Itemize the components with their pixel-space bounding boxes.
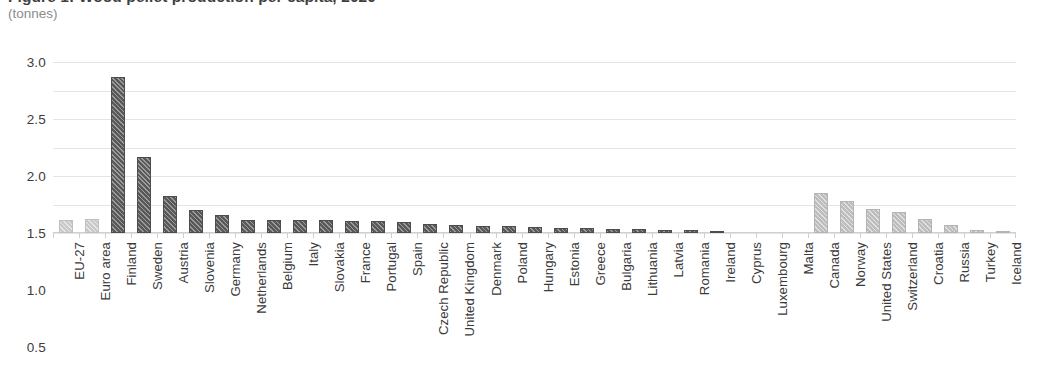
bar-slot bbox=[522, 62, 548, 233]
bar-slot bbox=[391, 62, 417, 233]
x-axis-tick bbox=[730, 233, 756, 238]
x-axis-tick bbox=[834, 233, 860, 238]
x-axis-label-slot: Netherlands bbox=[235, 240, 261, 375]
y-axis-tick-label: 1.5 bbox=[27, 226, 46, 241]
bar-slot bbox=[626, 62, 652, 233]
x-axis-tick bbox=[678, 233, 704, 238]
x-axis-tick bbox=[365, 233, 391, 238]
bar bbox=[215, 215, 229, 233]
chart-subtitle-units: (tonnes) bbox=[8, 6, 1008, 22]
bar-slot bbox=[443, 62, 469, 233]
x-axis-label-slot: Italy bbox=[287, 240, 313, 375]
x-axis-label-slot: Portugal bbox=[365, 240, 391, 375]
x-axis-tick bbox=[704, 233, 730, 238]
x-axis-label-slot: Germany bbox=[209, 240, 235, 375]
x-axis-tick bbox=[652, 233, 678, 238]
bar-slot bbox=[235, 62, 261, 233]
bar-slot bbox=[131, 62, 157, 233]
bar bbox=[163, 196, 177, 233]
bar bbox=[944, 225, 958, 233]
bar-slot bbox=[53, 62, 79, 233]
y-axis-tick-label: 2.5 bbox=[27, 112, 46, 127]
bar bbox=[267, 220, 281, 233]
bar-slot bbox=[105, 62, 131, 233]
bar-slot bbox=[548, 62, 574, 233]
chart-title: Figure 1: Wood pellet production per cap… bbox=[8, 0, 1008, 5]
chart-header: Figure 1: Wood pellet production per cap… bbox=[8, 0, 1008, 22]
bar bbox=[449, 225, 463, 233]
x-axis-label-slot: Bulgaria bbox=[600, 240, 626, 375]
x-axis-tick bbox=[417, 233, 443, 238]
x-axis-label-slot: Greece bbox=[574, 240, 600, 375]
x-axis-label-slot: France bbox=[339, 240, 365, 375]
bar bbox=[397, 222, 411, 233]
bar-slot bbox=[912, 62, 938, 233]
x-axis-tick bbox=[470, 233, 496, 238]
bar bbox=[892, 212, 906, 233]
bar bbox=[502, 226, 516, 233]
y-axis-tick-label: 3.0 bbox=[27, 55, 46, 70]
bar-slot bbox=[339, 62, 365, 233]
x-axis-labels: EU-27Euro areaFinlandSwedenAustriaSloven… bbox=[53, 240, 1016, 375]
x-axis-label-slot: Estonia bbox=[548, 240, 574, 375]
x-axis-tick bbox=[522, 233, 548, 238]
x-axis-label: Iceland bbox=[1009, 242, 1024, 285]
x-axis-tick bbox=[912, 233, 938, 238]
bar-slot bbox=[964, 62, 990, 233]
x-axis-tick bbox=[443, 233, 469, 238]
bar-slot bbox=[287, 62, 313, 233]
y-axis-tick-label: 2.0 bbox=[27, 169, 46, 184]
bar bbox=[111, 77, 125, 233]
x-axis-tick bbox=[235, 233, 261, 238]
bar bbox=[189, 210, 203, 233]
x-axis-tick bbox=[886, 233, 912, 238]
x-axis-label-slot: Euro area bbox=[79, 240, 105, 375]
x-axis-label-slot: Turkey bbox=[964, 240, 990, 375]
x-axis-tick bbox=[209, 233, 235, 238]
x-axis-label-slot: Cyprus bbox=[730, 240, 756, 375]
bar-slot bbox=[782, 62, 808, 233]
x-axis-tick bbox=[157, 233, 183, 238]
x-axis-label-slot: Norway bbox=[834, 240, 860, 375]
bar bbox=[476, 226, 490, 233]
x-axis-tick bbox=[496, 233, 522, 238]
x-axis-label-slot: Malta bbox=[782, 240, 808, 375]
bar-slot bbox=[157, 62, 183, 233]
bar bbox=[293, 220, 307, 233]
x-axis-label-slot: Switzerland bbox=[886, 240, 912, 375]
x-axis-tick bbox=[860, 233, 886, 238]
x-axis-tick bbox=[548, 233, 574, 238]
bar-slot bbox=[808, 62, 834, 233]
x-axis-label-slot: United Kingdom bbox=[443, 240, 469, 375]
x-axis-tick bbox=[574, 233, 600, 238]
bar-slot bbox=[730, 62, 756, 233]
bar-slot bbox=[470, 62, 496, 233]
bar-slot bbox=[990, 62, 1016, 233]
x-axis-tick bbox=[131, 233, 157, 238]
x-axis-label-slot: EU-27 bbox=[53, 240, 79, 375]
x-axis-label-slot: Ireland bbox=[704, 240, 730, 375]
bar-slot bbox=[652, 62, 678, 233]
x-axis-tick bbox=[313, 233, 339, 238]
x-axis-label-slot: Slovakia bbox=[313, 240, 339, 375]
bar bbox=[59, 220, 73, 233]
x-axis-tick bbox=[600, 233, 626, 238]
bar-slot bbox=[600, 62, 626, 233]
bar bbox=[85, 219, 99, 233]
bar-slot bbox=[417, 62, 443, 233]
bar-slot bbox=[678, 62, 704, 233]
x-axis-tick bbox=[938, 233, 964, 238]
x-axis-label-slot: Lithuania bbox=[626, 240, 652, 375]
x-axis-label-slot: Croatia bbox=[912, 240, 938, 375]
x-axis-label-slot: Finland bbox=[105, 240, 131, 375]
bar-slot bbox=[938, 62, 964, 233]
x-axis-label-slot: Belgium bbox=[261, 240, 287, 375]
bar bbox=[814, 193, 828, 233]
x-axis-label-slot: Czech Republic bbox=[417, 240, 443, 375]
bar-slot bbox=[496, 62, 522, 233]
x-axis-label-slot: Canada bbox=[808, 240, 834, 375]
bar-slot bbox=[834, 62, 860, 233]
x-axis-tick bbox=[53, 233, 79, 238]
x-axis-label-slot: Denmark bbox=[470, 240, 496, 375]
x-axis-label-slot: Latvia bbox=[652, 240, 678, 375]
